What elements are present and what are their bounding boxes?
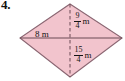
- upper-height-unit: m: [83, 17, 90, 26]
- upper-height-label: 9 4 m: [74, 11, 90, 30]
- kite-shape: [20, 4, 122, 77]
- lower-height-unit: m: [85, 51, 92, 60]
- geometry-figure: 4. 9 4 m 15 4 m 8 m: [0, 0, 125, 81]
- kite-diagram-svg: [0, 0, 125, 81]
- lower-height-label: 15 4 m: [74, 45, 92, 64]
- lower-height-denominator: 4: [76, 56, 81, 64]
- upper-height-numerator: 9: [75, 12, 80, 20]
- upper-height-denominator: 4: [75, 22, 80, 30]
- lower-height-fraction: 15 4: [74, 46, 83, 64]
- base-length-label: 8 m: [35, 30, 49, 39]
- lower-height-numerator: 15: [74, 46, 83, 54]
- upper-height-fraction: 9 4: [74, 12, 81, 30]
